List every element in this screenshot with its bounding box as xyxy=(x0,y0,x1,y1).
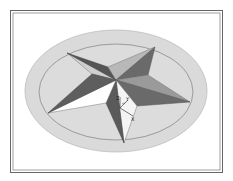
x-axis-label: X xyxy=(131,116,135,122)
z-axis-label: Z xyxy=(116,95,120,101)
model-canvas[interactable]: Z Y X xyxy=(0,0,233,181)
cad-viewport[interactable]: Z Y X xyxy=(0,0,233,181)
